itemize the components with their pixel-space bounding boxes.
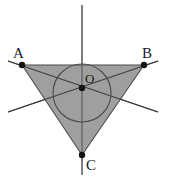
- geometry-figure: A B C O: [0, 0, 170, 178]
- vertex-point-a: [19, 62, 25, 68]
- vertex-point-c: [79, 152, 85, 158]
- label-o: O: [85, 71, 94, 86]
- vertex-point-b: [141, 62, 147, 68]
- geometry-canvas: A B C O: [0, 0, 170, 178]
- label-a: A: [13, 45, 24, 61]
- label-b: B: [142, 45, 152, 61]
- label-c: C: [86, 157, 96, 173]
